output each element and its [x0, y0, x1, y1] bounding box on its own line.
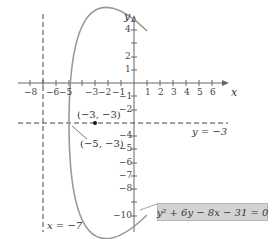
x-tick-label: 2	[158, 88, 164, 97]
x-tick-label: −3	[85, 88, 98, 97]
axis-of-symmetry-label: y = −3	[192, 127, 227, 137]
y-axis-label: y	[124, 11, 130, 22]
x-tick-label: −2	[98, 88, 111, 97]
equation-label-box: y² + 6y − 8x − 31 = 0	[157, 203, 268, 221]
y-tick-label: −10	[113, 211, 132, 220]
y-tick-label: −1	[119, 92, 132, 101]
y-tick-label: −6	[119, 158, 132, 167]
x-tick-label: −6	[46, 88, 59, 97]
x-tick-label: 5	[197, 88, 203, 97]
directrix-label: x = −7	[47, 221, 82, 231]
x-tick-label: −5	[59, 88, 72, 97]
equation-label: y² + 6y − 8x − 31 = 0	[157, 207, 269, 218]
y-tick-label: 4	[125, 25, 131, 34]
x-axis	[18, 80, 229, 86]
x-axis-label: x	[231, 87, 237, 98]
equation-leader-line	[140, 204, 157, 210]
focus-point-label: (−3, −3)	[77, 110, 121, 120]
x-tick-label: 6	[210, 88, 216, 97]
y-tick-label: 2	[125, 52, 131, 61]
y-tick-label: −8	[119, 184, 132, 193]
x-tick-label: 1	[145, 88, 151, 97]
x-tick-label: −8	[24, 88, 37, 97]
x-tick-label: 3	[171, 88, 177, 97]
vertex-point-label: (−5, −3)	[80, 139, 124, 149]
y-tick-label: −7	[119, 171, 132, 180]
x-tick-label: 4	[184, 88, 190, 97]
focus-point-marker	[93, 121, 97, 125]
y-tick-label: 1	[125, 65, 131, 74]
